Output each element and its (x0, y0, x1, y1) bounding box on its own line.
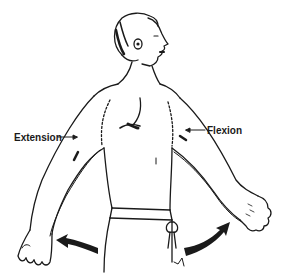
arrow-right-icon (184, 222, 230, 256)
arrow-left-icon (56, 234, 98, 254)
extension-arrowhead-icon (73, 135, 77, 139)
flexion-label: Flexion (207, 126, 242, 136)
flexion-arrowhead-icon (186, 128, 190, 132)
motion-arrows (56, 222, 230, 256)
right-arm-flexion (172, 98, 271, 231)
extension-label: Extension (14, 133, 62, 143)
head (115, 13, 169, 84)
torso (94, 84, 180, 210)
pants (104, 208, 184, 272)
